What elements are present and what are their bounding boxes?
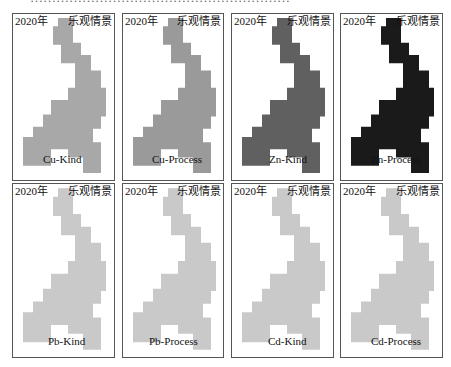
region-map [232,184,334,358]
region-map [341,184,443,358]
year-label: 2020年 [234,185,267,197]
scenario-label: 乐观情景 [396,15,440,27]
year-label: 2020年 [15,185,48,197]
metal-process-label: Cd-Kind [268,335,307,347]
metal-process-label: Cd-Process [371,335,421,347]
region-map [13,184,115,358]
caption-fragment: …………………………………………………… [0,0,451,6]
metal-process-label: Zn-Kind [269,153,307,165]
caption-text: …………………………………………………… [30,0,290,6]
map-panel-zn-kind: 2020年 乐观情景 Zn-Kind [231,13,334,181]
map-panel-zn-process: 2020年 乐观情景 Zn-Process [340,13,443,181]
map-panel-cd-process: 2020年 乐观情景 Cd-Process [340,183,443,358]
map-panel-pb-kind: 2020年 乐观情景 Pb-Kind [12,183,115,358]
map-panel-cd-kind: 2020年 乐观情景 Cd-Kind [231,183,334,358]
map-panel-cu-process: 2020年 乐观情景 Cu-Process [122,13,224,181]
metal-process-label: Zn-Process [371,153,421,165]
metal-process-label: Pb-Process [149,335,198,347]
region-map [123,184,224,358]
scenario-label: 乐观情景 [177,185,221,197]
scenario-label: 乐观情景 [68,185,112,197]
year-label: 2020年 [125,185,158,197]
map-panel-pb-process: 2020年 乐观情景 Pb-Process [122,183,224,358]
year-label: 2020年 [125,15,158,27]
scenario-label: 乐观情景 [287,15,331,27]
year-label: 2020年 [15,15,48,27]
map-panel-cu-kind: 2020年 乐观情景 Cu-Kind [12,13,115,181]
scenario-label: 乐观情景 [287,185,331,197]
metal-process-label: Cu-Process [152,153,202,165]
scenario-label: 乐观情景 [396,185,440,197]
scenario-label: 乐观情景 [177,15,221,27]
metal-process-label: Cu-Kind [43,153,82,165]
metal-process-label: Pb-Kind [48,335,85,347]
year-label: 2020年 [343,15,376,27]
year-label: 2020年 [234,15,267,27]
year-label: 2020年 [343,185,376,197]
scenario-label: 乐观情景 [68,15,112,27]
